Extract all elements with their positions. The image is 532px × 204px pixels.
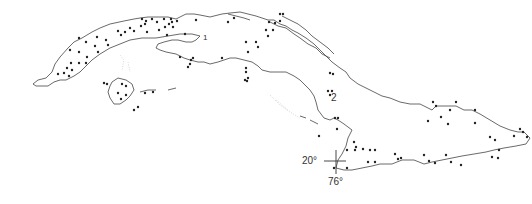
location-dot [172,26,174,28]
location-dot [423,154,425,156]
region-label-2: 2 [331,93,337,103]
location-dot [367,161,369,163]
location-dot [245,71,247,73]
location-dot [137,106,139,108]
location-dot [133,30,135,32]
location-dot [279,20,281,22]
location-dot [257,46,259,48]
location-dot [255,41,257,43]
region-label-1: 1 [203,33,207,43]
location-dot [189,63,191,65]
location-dot [158,29,160,31]
location-dot [434,162,436,164]
location-dot [460,164,462,166]
location-dot [168,23,170,25]
location-dot [245,41,247,43]
location-dot [440,116,442,118]
location-dot [63,72,65,74]
location-dot [121,83,123,85]
location-dot [474,122,476,124]
location-dot [327,90,329,92]
location-dot [184,33,186,35]
location-dot [156,21,158,23]
location-dot [245,67,247,69]
location-dot [374,161,376,163]
location-dot [489,136,491,138]
location-dot [346,149,348,151]
graticule-cross [324,150,346,174]
location-dot [355,146,357,148]
location-dot [369,149,371,151]
location-dot [66,67,68,69]
location-dot [227,21,229,23]
location-dot [69,49,71,51]
location-dot [374,149,376,151]
location-dot [272,29,274,31]
location-dot [57,73,59,75]
location-dot [445,154,447,156]
location-dot [447,123,449,125]
location-dot [125,85,127,87]
location-dot [78,51,80,53]
location-dot [171,21,173,23]
shoal-area-south [270,95,300,118]
location-dot [195,19,197,21]
location-dot [346,167,348,169]
location-dot [120,98,122,100]
location-dot [247,51,249,53]
location-dot [498,149,500,151]
location-dot [86,56,88,58]
location-dot [279,13,281,15]
location-dot [164,26,166,28]
location-dot [494,139,496,141]
location-dot [85,41,87,43]
location-dot [265,29,267,31]
location-dot [190,59,192,61]
location-dot [233,17,235,19]
location-dot [334,117,336,119]
shoal-area-west [120,55,130,72]
longitude-label: 76° [328,177,343,187]
latitude-label: 20° [302,156,317,166]
location-dot [107,44,109,46]
location-dot [144,92,146,94]
location-dot [133,109,135,111]
location-dot [176,20,178,22]
location-dot [394,153,396,155]
location-dot [267,35,269,37]
location-dot [94,45,96,47]
location-dot [513,135,515,137]
location-dot [170,18,172,20]
location-dot [432,101,434,103]
location-dot [397,158,399,160]
southern-cays [140,88,318,124]
location-dot [106,83,108,85]
location-dot [78,37,80,39]
location-dot [455,101,457,103]
location-dot [120,34,122,36]
location-dot [246,80,248,82]
location-dot [152,91,154,93]
location-dot [70,62,72,64]
location-dot [336,128,338,130]
location-dot [354,149,356,151]
location-dot [428,160,430,162]
location-dot [117,92,119,94]
main-island-coastline [33,12,530,170]
location-dot [337,117,339,119]
location-dot [400,157,402,159]
location-dot [146,31,148,33]
location-dot [491,156,493,158]
location-dot [96,36,98,38]
location-dot [282,13,284,15]
location-dot [78,62,80,64]
location-dot [85,62,87,64]
location-dot [435,105,437,107]
location-dot [497,157,499,159]
location-dot [141,18,143,20]
location-dot [427,120,429,122]
location-dot [129,27,131,29]
location-dot [450,161,452,163]
location-dot [140,25,142,27]
location-dot [144,23,146,25]
